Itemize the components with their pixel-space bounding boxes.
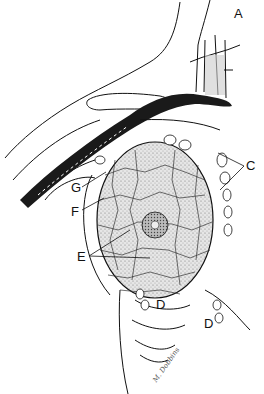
nipple (151, 221, 159, 229)
label-d-2: D (204, 317, 213, 330)
label-e: E (77, 250, 86, 263)
label-b: B (178, 72, 187, 85)
label-c: C (246, 159, 255, 172)
label-f: F (71, 205, 79, 218)
label-g: G (71, 181, 81, 194)
anatomical-illustration (0, 0, 264, 394)
label-d-1: D (156, 298, 165, 311)
label-a: A (234, 7, 243, 20)
